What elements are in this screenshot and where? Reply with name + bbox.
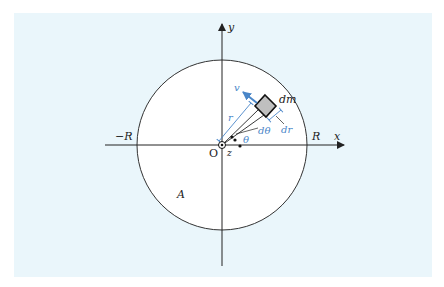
velocity-label: v	[234, 82, 240, 93]
disk-diagram: y x O z −R R A r v dm θ dθ dr	[0, 0, 444, 287]
angle-dot-2	[233, 138, 236, 141]
z-axis-label: z	[226, 148, 232, 158]
dr-label: dr	[281, 124, 293, 135]
mass-element-label: dm	[279, 93, 296, 106]
origin-label: O	[209, 147, 218, 160]
angle-dot-1	[230, 135, 233, 138]
neg-radius-label: −R	[115, 130, 133, 143]
area-label: A	[176, 188, 185, 201]
dtheta-label: dθ	[258, 125, 270, 136]
angle-dot-3	[238, 144, 241, 147]
pos-radius-label: R	[311, 130, 320, 143]
angle-label: θ	[243, 134, 249, 145]
x-axis-label: x	[334, 130, 341, 143]
y-axis-label: y	[227, 21, 235, 34]
z-axis-dot	[221, 144, 224, 147]
